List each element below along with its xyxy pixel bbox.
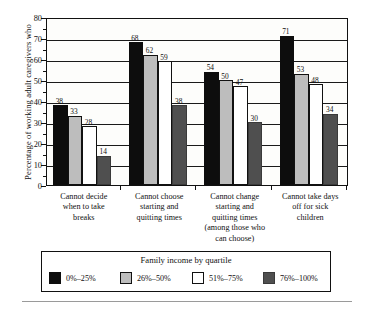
- legend-label: 26%–50%: [137, 274, 171, 283]
- legend: Family income by quartile 0%–25%26%–50%5…: [41, 251, 331, 292]
- legend-swatch: [49, 272, 61, 284]
- bar: [172, 105, 187, 185]
- bar: [280, 36, 295, 185]
- y-axis-tick-label: 10: [18, 161, 42, 170]
- legend-item[interactable]: 26%–50%: [120, 270, 171, 286]
- bar: [323, 114, 338, 185]
- legend-label: 76%–100%: [280, 274, 318, 283]
- legend-swatch: [192, 272, 204, 284]
- bar: [158, 61, 173, 185]
- x-axis-group-label-line: can choose): [189, 234, 281, 244]
- y-axis-tick-label: 50: [18, 77, 42, 86]
- x-axis-group-label-line: (among those who: [189, 223, 281, 233]
- plot-inner: [47, 19, 347, 185]
- y-axis-tick-label: 20: [18, 140, 42, 149]
- bar-value-label: 47: [228, 78, 251, 87]
- x-axis-group-label-line: Cannot take days: [265, 192, 357, 202]
- bar-value-label: 68: [124, 34, 147, 43]
- y-axis-tick-label: 60: [18, 56, 42, 65]
- gridline: [47, 40, 347, 41]
- plot-area: [46, 18, 348, 186]
- bar: [248, 122, 263, 185]
- y-axis-tick-label: 80: [18, 14, 42, 23]
- legend-label: 51%–75%: [209, 274, 243, 283]
- bar-value-label: 33: [63, 107, 86, 116]
- legend-label: 0%–25%: [66, 274, 96, 283]
- legend-item[interactable]: 0%–25%: [49, 270, 96, 286]
- bar-value-label: 59: [153, 53, 176, 62]
- bar-value-label: 34: [318, 105, 341, 114]
- bar: [53, 105, 68, 185]
- x-axis-tick-mark: [346, 186, 347, 190]
- x-axis-tick-mark: [271, 186, 272, 190]
- legend-item[interactable]: 51%–75%: [192, 270, 243, 286]
- bar: [309, 84, 324, 185]
- legend-items: 0%–25%26%–50%51%–75%76%–100%: [49, 270, 325, 288]
- bar-value-label: 71: [275, 27, 298, 36]
- bottom-divider: [22, 301, 352, 302]
- legend-swatch: [120, 272, 132, 284]
- bar-value-label: 30: [243, 114, 266, 123]
- bar-value-label: 48: [304, 76, 327, 85]
- x-axis-tick-mark: [195, 186, 196, 190]
- legend-title: Family income by quartile: [42, 255, 330, 265]
- bar-value-label: 38: [167, 97, 190, 106]
- bar: [204, 72, 219, 185]
- x-axis-group-label-line: off for sick: [265, 202, 357, 212]
- legend-swatch: [263, 272, 275, 284]
- x-axis-group-label-line: children: [265, 213, 357, 223]
- bar: [294, 74, 309, 185]
- y-axis-tick-label: 70: [18, 35, 42, 44]
- y-axis-tick-label: 30: [18, 119, 42, 128]
- y-axis-tick-label: 40: [18, 98, 42, 107]
- bar-value-label: 38: [48, 97, 71, 106]
- x-axis-tick-mark: [120, 186, 121, 190]
- x-axis-group-label: Cannot take daysoff for sickchildren: [265, 192, 357, 223]
- bar: [97, 156, 112, 185]
- bar: [219, 80, 234, 185]
- legend-item[interactable]: 76%–100%: [263, 270, 318, 286]
- bar-value-label: 53: [289, 65, 312, 74]
- bar-value-label: 14: [92, 147, 115, 156]
- bar: [129, 42, 144, 185]
- bar-value-label: 28: [77, 118, 100, 127]
- bar-chart-figure: Percentage of working adult caregivers w…: [0, 0, 372, 311]
- y-axis-tick-label: 0: [18, 182, 42, 191]
- y-axis-tick-mark: [41, 186, 46, 187]
- bar: [143, 55, 158, 185]
- gridline: [47, 61, 347, 62]
- bar: [233, 86, 248, 185]
